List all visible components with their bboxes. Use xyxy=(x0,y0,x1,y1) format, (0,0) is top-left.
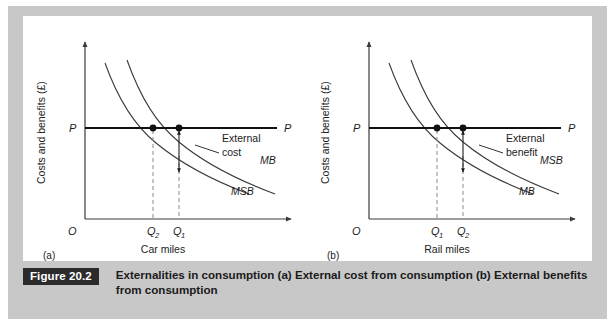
price-label-right-b: P xyxy=(568,122,576,134)
figure-block: Costs and benefits (£) O P P External xyxy=(8,6,607,319)
annotation-leader-b xyxy=(479,145,503,153)
external-benefit-label-line1-b: External xyxy=(506,132,545,144)
price-label-right-a: P xyxy=(284,122,292,134)
point-q1-a xyxy=(176,125,183,132)
chart-panel-a: Costs and benefits (£) O P P External xyxy=(23,16,308,261)
y-axis-title-a: Costs and benefits (£) xyxy=(35,81,47,184)
point-q2-b xyxy=(460,125,467,132)
xtick-q1-sub-a: 1 xyxy=(181,231,185,240)
external-cost-label-line1-a: External xyxy=(222,132,261,144)
chart-panel-b: Costs and benefits (£) O P P External xyxy=(307,16,592,261)
plot-panel: Costs and benefits (£) O P P External xyxy=(23,16,592,261)
panel-tag-b: (b) xyxy=(327,250,339,261)
origin-label-a: O xyxy=(68,225,77,237)
figure-caption-strip: Figure 20.2 Externalities in consumption… xyxy=(23,264,592,309)
annotation-leader-a xyxy=(195,145,219,153)
xtick-q2-sub-b: 2 xyxy=(464,231,470,240)
x-axis-title-a: Car miles xyxy=(141,243,185,255)
curve-label-msb-b: MSB xyxy=(540,154,563,166)
curve-label-msb-a: MSB xyxy=(231,185,254,197)
panel-tag-a: (a) xyxy=(43,250,55,261)
external-benefit-label-line2-b: benefit xyxy=(506,146,538,158)
point-q2-a xyxy=(150,125,157,132)
figure-caption-text: Externalities in consumption (a) Externa… xyxy=(116,267,592,297)
y-axis-title-b: Costs and benefits (£) xyxy=(319,81,331,184)
price-label-left-b: P xyxy=(353,122,361,134)
figure-number-badge: Figure 20.2 xyxy=(23,268,99,285)
curve-label-mb-b: MB xyxy=(519,185,535,197)
x-axis-title-b: Rail miles xyxy=(424,243,470,255)
external-cost-label-line2-a: cost xyxy=(222,146,241,158)
origin-label-b: O xyxy=(352,225,361,237)
curve-label-mb-a: MB xyxy=(260,154,276,166)
xtick-q1-sub-b: 1 xyxy=(439,231,443,240)
xtick-q2-sub-a: 2 xyxy=(154,231,160,240)
price-label-left-a: P xyxy=(69,122,77,134)
point-q1-b xyxy=(434,125,441,132)
